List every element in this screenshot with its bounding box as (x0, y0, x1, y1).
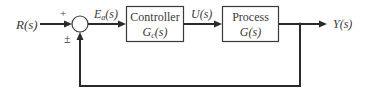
process-title: Process (232, 10, 269, 24)
plus-sign: + (60, 7, 66, 19)
input-arrow (40, 21, 72, 28)
error-arrow (88, 21, 126, 28)
feedback-block-diagram: R(s) + ± Ea(s) Controller Gc(s) U(s) Pro… (0, 0, 366, 95)
output-arrow (279, 21, 327, 28)
input-label: R(s) (15, 17, 38, 32)
control-signal-arrow (184, 21, 222, 28)
error-signal-label: Ea(s) (93, 7, 118, 22)
control-signal-label: U(s) (191, 7, 212, 21)
output-label: Y(s) (333, 17, 352, 31)
controller-title: Controller (130, 10, 179, 24)
process-transfer-function: G(s) (240, 25, 261, 39)
summing-junction (72, 16, 88, 32)
feedback-sign: ± (64, 32, 71, 46)
controller-transfer-function: Gc(s) (143, 25, 168, 40)
